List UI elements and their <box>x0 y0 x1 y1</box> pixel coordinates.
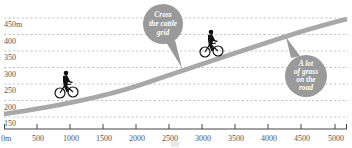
annotation-bubble-cattle-grid: Cross the cattle grid <box>143 4 183 68</box>
annotation-bubble-grass: A lot of grass on the road <box>285 37 327 97</box>
x-label-2000: 2000 <box>129 134 145 143</box>
bubble1-line1: Cross <box>154 10 172 19</box>
y-label-300: 300 <box>4 70 16 79</box>
y-label-400: 400 <box>4 37 16 46</box>
y-label-450: 450m <box>4 20 23 29</box>
x-label-0: 0m <box>1 134 12 143</box>
y-label-200: 200 <box>4 103 16 112</box>
x-label-1500: 1500 <box>96 134 112 143</box>
x-label-1000: 1000 <box>63 134 79 143</box>
cyclist-icon <box>200 30 223 57</box>
x-label-4500: 4500 <box>294 134 310 143</box>
x-label-5000: 5000 <box>328 134 344 143</box>
bubble2-line4: road <box>299 83 313 92</box>
x-axis <box>4 124 347 129</box>
y-label-250: 250 <box>4 86 16 95</box>
bubble1-line2: the cattle <box>149 19 178 28</box>
elevation-chart: 450m 400 350 300 250 200 150 0m 500 1000… <box>0 0 352 148</box>
y-label-350: 350 <box>4 53 16 62</box>
x-label-4000: 4000 <box>261 134 277 143</box>
bubble1-line3: grid <box>156 28 170 37</box>
x-label-500: 500 <box>32 134 44 143</box>
y-label-150: 150 <box>4 119 16 128</box>
x-label-3000: 3000 <box>195 134 211 143</box>
x-label-3500: 3500 <box>228 134 244 143</box>
watermark-mark <box>171 141 179 147</box>
